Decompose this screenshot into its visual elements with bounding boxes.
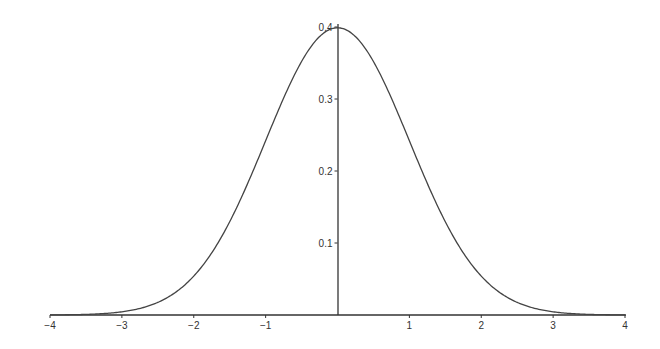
y-tick-label: 0.2 xyxy=(319,166,333,177)
x-tick-label: 1 xyxy=(407,320,413,331)
x-tick-label: −4 xyxy=(44,320,56,331)
x-tick-label: 2 xyxy=(478,320,484,331)
x-tick-label: 4 xyxy=(622,320,628,331)
y-tick-labels: 0.10.20.30.4 xyxy=(319,22,338,249)
x-tick-labels: −4−3−2−11234 xyxy=(44,315,628,331)
y-tick-label: 0.1 xyxy=(319,238,333,249)
x-tick-label: −1 xyxy=(260,320,272,331)
x-tick-label: −3 xyxy=(116,320,128,331)
x-tick-label: 3 xyxy=(550,320,556,331)
normal-distribution-chart: −4−3−2−11234 0.10.20.30.4 xyxy=(0,0,660,349)
y-tick-label: 0.3 xyxy=(319,94,333,105)
x-tick-label: −2 xyxy=(188,320,200,331)
